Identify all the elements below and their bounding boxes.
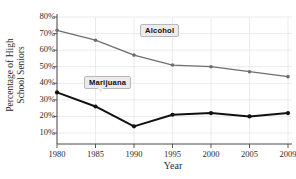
- x-tick-label-1980: 1980: [37, 149, 77, 159]
- series-label-alcohol: Alcohol: [140, 24, 179, 37]
- data-point-alcohol-1995: [171, 63, 175, 67]
- chart-container: Percentage of High School Seniors 80%70%…: [0, 0, 296, 179]
- data-point-marijuana-1980: [55, 90, 59, 94]
- data-point-alcohol-1990: [132, 53, 136, 57]
- data-point-marijuana-1995: [170, 113, 174, 117]
- data-point-marijuana-2009: [286, 111, 290, 115]
- data-point-marijuana-2000: [209, 111, 213, 115]
- data-point-alcohol-1980: [55, 28, 59, 32]
- data-point-alcohol-2000: [209, 65, 213, 69]
- x-tick-label-1995: 1995: [153, 149, 193, 159]
- y-axis-tickmarks: [54, 17, 58, 133]
- data-point-marijuana-1985: [93, 104, 97, 108]
- series-label-marijuana-tail: [96, 86, 104, 93]
- data-point-alcohol-2009: [286, 75, 290, 79]
- data-point-alcohol-1985: [94, 38, 98, 42]
- data-point-marijuana-1990: [132, 124, 136, 128]
- x-tick-label-1985: 1985: [76, 149, 116, 159]
- data-point-marijuana-2005: [247, 114, 251, 118]
- data-point-alcohol-2005: [248, 70, 252, 74]
- x-tick-label-2000: 2000: [191, 149, 231, 159]
- x-tick-label-2009: 2009: [268, 149, 296, 159]
- x-axis-tickmarks: [57, 144, 288, 148]
- x-tick-label-1990: 1990: [114, 149, 154, 159]
- series-label-marijuana: Marijuana: [84, 76, 131, 89]
- x-axis-title: Year: [50, 160, 296, 171]
- x-tick-label-2005: 2005: [230, 149, 270, 159]
